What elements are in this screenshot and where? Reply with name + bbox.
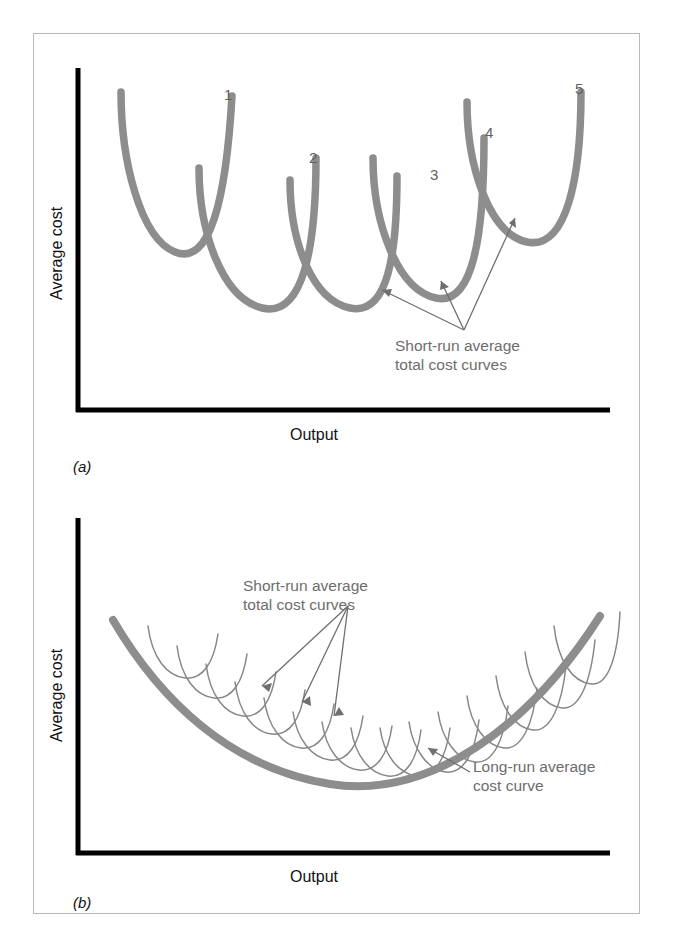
panel-a-annotation-line1: Short-run average [395, 337, 520, 354]
panel-b-annotation-long-run: Long-run average cost curve [473, 758, 595, 794]
panel-b-y-axis-label: Average cost [48, 648, 65, 742]
sratc-small-curve [467, 688, 537, 748]
sratc-small-curve [235, 682, 305, 734]
panel-b-long-run-line2: cost curve [473, 777, 544, 794]
curve-label-1: 1 [224, 86, 232, 103]
panel-a-y-axis-label: Average cost [48, 206, 65, 300]
panel-b-annotation-short-run: Short-run average total cost curves [243, 577, 368, 613]
leader-line-b-3 [334, 606, 348, 716]
curve-label-2: 2 [309, 149, 317, 166]
panel-a-chart: 1 2 3 4 5 Short-run average total cost c… [0, 0, 674, 947]
panel-a-x-axis-label: Output [290, 426, 339, 443]
sratc-small-curve [554, 612, 620, 684]
panel-a-tag: (a) [73, 458, 91, 475]
figure-root: 1 2 3 4 5 Short-run average total cost c… [0, 0, 674, 947]
panel-b-short-run-line2: total cost curves [243, 596, 355, 613]
panel-b-leaders-short-run [262, 606, 348, 716]
curve-label-5: 5 [575, 80, 583, 97]
panel-b-long-run-line1: Long-run average [473, 758, 595, 775]
panel-b-x-axis-label: Output [290, 868, 339, 885]
leader-line-b-1 [262, 606, 348, 686]
curve-label-3: 3 [430, 166, 438, 183]
panel-b-sratc-curves [148, 612, 620, 776]
sratc-small-curve [351, 728, 421, 776]
panel-a-curve-labels: 1 2 3 4 5 [224, 80, 583, 183]
curve-label-4: 4 [485, 124, 493, 141]
leader-arrowhead-a-3 [509, 218, 516, 228]
leader-line-b-2 [302, 606, 348, 702]
panel-a-annotation-line2: total cost curves [395, 356, 507, 373]
panel-a-annotation: Short-run average total cost curves [395, 337, 520, 373]
panel-a-sratc-curves [121, 92, 581, 309]
leader-arrowhead-b-lrac [428, 748, 438, 756]
sratc-curve-3 [290, 176, 397, 309]
panel-b-tag: (b) [73, 894, 91, 911]
sratc-small-curve [264, 698, 334, 748]
sratc-small-curve [322, 722, 392, 770]
panel-b-short-run-line1: Short-run average [243, 577, 368, 594]
sratc-curve-1 [121, 92, 232, 254]
